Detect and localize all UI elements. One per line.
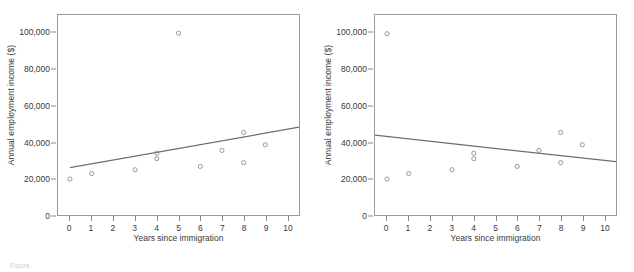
y-tick-mark xyxy=(368,179,373,180)
x-tick-mark xyxy=(561,216,562,221)
x-tick-label: 8 xyxy=(559,223,564,233)
y-tick-label: 80,000 xyxy=(341,64,367,74)
x-tick-mark xyxy=(496,216,497,221)
x-tick-mark xyxy=(474,216,475,221)
x-tick-mark xyxy=(244,216,245,221)
x-tick-mark xyxy=(517,216,518,221)
y-tick-label: 20,000 xyxy=(24,174,50,184)
y-tick-label: 0 xyxy=(45,211,50,221)
x-tick-mark xyxy=(266,216,267,221)
chart-panel-left: Annual employment income ($) 020,00040,0… xyxy=(0,0,317,256)
x-tick-label: 0 xyxy=(67,223,72,233)
y-tick-label: 60,000 xyxy=(341,101,367,111)
y-tick-mark xyxy=(51,142,56,143)
data-point xyxy=(133,168,137,172)
plot-area-left xyxy=(58,15,299,215)
data-point xyxy=(472,151,476,155)
x-tick-mark xyxy=(179,216,180,221)
x-tick-label: 5 xyxy=(176,223,181,233)
data-point xyxy=(385,32,389,36)
x-tick-label: 2 xyxy=(427,223,432,233)
y-tick-label: 60,000 xyxy=(24,101,50,111)
x-tick-label: 4 xyxy=(154,223,159,233)
x-tick-label: 5 xyxy=(493,223,498,233)
data-point xyxy=(242,130,246,134)
y-tick-label: 100,000 xyxy=(19,27,50,37)
data-point xyxy=(559,161,563,165)
data-point xyxy=(263,143,267,147)
data-point xyxy=(537,148,541,152)
x-tick-mark xyxy=(91,216,92,221)
x-tick-label: 10 xyxy=(283,223,292,233)
data-point xyxy=(385,177,389,181)
data-point xyxy=(559,130,563,134)
y-axis-ticks-left: 020,00040,00060,00080,000100,000 xyxy=(14,0,56,216)
x-tick-mark xyxy=(539,216,540,221)
y-tick-label: 40,000 xyxy=(24,138,50,148)
y-tick-mark xyxy=(368,142,373,143)
x-tick-mark xyxy=(113,216,114,221)
x-tick-mark xyxy=(583,216,584,221)
y-tick-mark xyxy=(51,32,56,33)
y-tick-mark xyxy=(368,69,373,70)
x-tick-label: 8 xyxy=(242,223,247,233)
plot-box-right xyxy=(374,14,617,216)
y-tick-mark xyxy=(368,32,373,33)
x-tick-mark xyxy=(452,216,453,221)
x-tick-mark xyxy=(605,216,606,221)
scatter-svg-right xyxy=(375,15,616,215)
x-tick-label: 7 xyxy=(537,223,542,233)
x-axis-title-right: Years since immigration xyxy=(374,233,617,243)
x-tick-mark xyxy=(200,216,201,221)
y-tick-mark xyxy=(51,216,56,217)
x-tick-label: 1 xyxy=(89,223,94,233)
data-point xyxy=(515,164,519,168)
data-point xyxy=(176,31,180,35)
plot-area-right xyxy=(375,15,616,215)
data-point xyxy=(68,177,72,181)
data-point xyxy=(90,171,94,175)
scatter-svg-left xyxy=(58,15,299,215)
data-point xyxy=(155,157,159,161)
y-tick-mark xyxy=(51,179,56,180)
trend-line xyxy=(375,135,616,162)
trend-line xyxy=(70,127,299,168)
data-point xyxy=(472,157,476,161)
y-axis-ticks-right: 020,00040,00060,00080,000100,000 xyxy=(331,0,373,216)
x-tick-label: 7 xyxy=(220,223,225,233)
x-axis-title-left: Years since immigration xyxy=(57,233,300,243)
y-tick-mark xyxy=(51,105,56,106)
x-tick-mark xyxy=(408,216,409,221)
x-tick-label: 9 xyxy=(264,223,269,233)
y-tick-mark xyxy=(368,105,373,106)
y-tick-mark xyxy=(368,216,373,217)
figure-container: Annual employment income ($) 020,00040,0… xyxy=(0,0,634,272)
x-tick-mark xyxy=(430,216,431,221)
chart-panel-right: Annual employment income ($) 020,00040,0… xyxy=(317,0,634,256)
x-tick-label: 9 xyxy=(581,223,586,233)
x-tick-label: 10 xyxy=(600,223,609,233)
y-tick-label: 40,000 xyxy=(341,138,367,148)
data-point xyxy=(407,171,411,175)
x-tick-mark xyxy=(135,216,136,221)
x-tick-mark xyxy=(386,216,387,221)
figure-caption: Figure. xyxy=(10,262,624,269)
x-tick-label: 6 xyxy=(515,223,520,233)
x-tick-label: 0 xyxy=(384,223,389,233)
y-tick-mark xyxy=(51,69,56,70)
plot-box-left xyxy=(57,14,300,216)
y-tick-label: 80,000 xyxy=(24,64,50,74)
x-tick-label: 3 xyxy=(132,223,137,233)
y-tick-label: 100,000 xyxy=(336,27,367,37)
x-tick-label: 2 xyxy=(110,223,115,233)
y-tick-label: 20,000 xyxy=(341,174,367,184)
x-tick-mark xyxy=(157,216,158,221)
data-point xyxy=(242,161,246,165)
x-tick-label: 4 xyxy=(471,223,476,233)
x-tick-mark xyxy=(288,216,289,221)
data-point xyxy=(450,168,454,172)
data-point xyxy=(198,164,202,168)
x-tick-label: 6 xyxy=(198,223,203,233)
y-tick-label: 0 xyxy=(362,211,367,221)
data-point xyxy=(580,143,584,147)
